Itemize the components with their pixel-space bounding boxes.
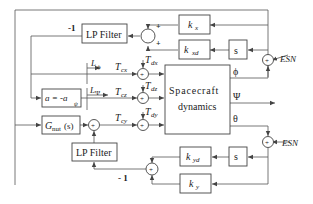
svg-text:+: + (149, 166, 153, 174)
svg-text:+: + (91, 122, 95, 130)
svg-text:ψ: ψ (74, 101, 78, 107)
block-diagram: k x k xd s LP Filter a = -a ψ G nut (s) … (0, 0, 313, 204)
svg-text:+: + (156, 39, 161, 48)
block-kyd: k yd (180, 147, 211, 166)
block-spacecraft-dynamics: Spacecraft dynamics (165, 65, 230, 134)
svg-text:k: k (184, 44, 189, 55)
svg-text:a = -a: a = -a (45, 93, 68, 103)
svg-text:+: + (156, 22, 161, 31)
svg-text:LP Filter: LP Filter (86, 29, 122, 40)
block-kxd: k xd (179, 40, 210, 59)
svg-text:k: k (189, 178, 194, 189)
svg-text:+: + (140, 122, 144, 130)
svg-text:cz: cz (121, 91, 127, 99)
svg-text:+: + (265, 139, 269, 147)
block-gnut: G nut (s) (42, 116, 80, 134)
svg-text:cx: cx (121, 66, 128, 74)
svg-text:Ψ: Ψ (95, 89, 101, 97)
block-lp-filter-bottom: LP Filter (72, 143, 117, 161)
svg-text:xd: xd (191, 49, 199, 57)
block-lp-filter-top: LP Filter (82, 24, 127, 43)
svg-text:+: + (140, 71, 144, 79)
svg-text:Ψ: Ψ (233, 91, 241, 102)
svg-text:k: k (186, 151, 191, 162)
svg-text:s: s (234, 151, 238, 162)
svg-text:ESN: ESN (281, 138, 299, 148)
block-s-bottom: s (229, 147, 247, 166)
svg-text:dynamics: dynamics (178, 101, 216, 112)
svg-text:(s): (s) (64, 121, 74, 131)
svg-text:LP Filter: LP Filter (76, 147, 112, 158)
svg-text:dz: dz (151, 85, 158, 93)
svg-text:ϕ: ϕ (97, 63, 101, 71)
svg-text:Spacecraft: Spacecraft (169, 85, 219, 96)
block-s-top: s (229, 40, 247, 59)
svg-text:yd: yd (192, 156, 200, 164)
block-kx: k x (179, 15, 210, 34)
svg-text:+: + (140, 95, 144, 103)
svg-text:- 1: - 1 (118, 173, 128, 183)
svg-text:ESN: ESN (279, 54, 297, 64)
svg-text:nut: nut (52, 125, 61, 133)
block-a: a = -a ψ (42, 89, 81, 107)
svg-text:dx: dx (151, 59, 159, 67)
svg-text:θ: θ (233, 113, 238, 124)
svg-text:+: + (265, 57, 269, 65)
svg-text:ϕ: ϕ (233, 66, 238, 77)
sum-top-feedback (141, 29, 155, 43)
svg-text:-1: -1 (68, 23, 76, 33)
svg-text:L: L (90, 58, 96, 68)
svg-text:cy: cy (121, 117, 128, 125)
svg-text:s: s (234, 45, 238, 56)
block-ky: k y (180, 174, 211, 193)
svg-text:dy: dy (151, 111, 159, 119)
svg-text:k: k (188, 19, 193, 30)
